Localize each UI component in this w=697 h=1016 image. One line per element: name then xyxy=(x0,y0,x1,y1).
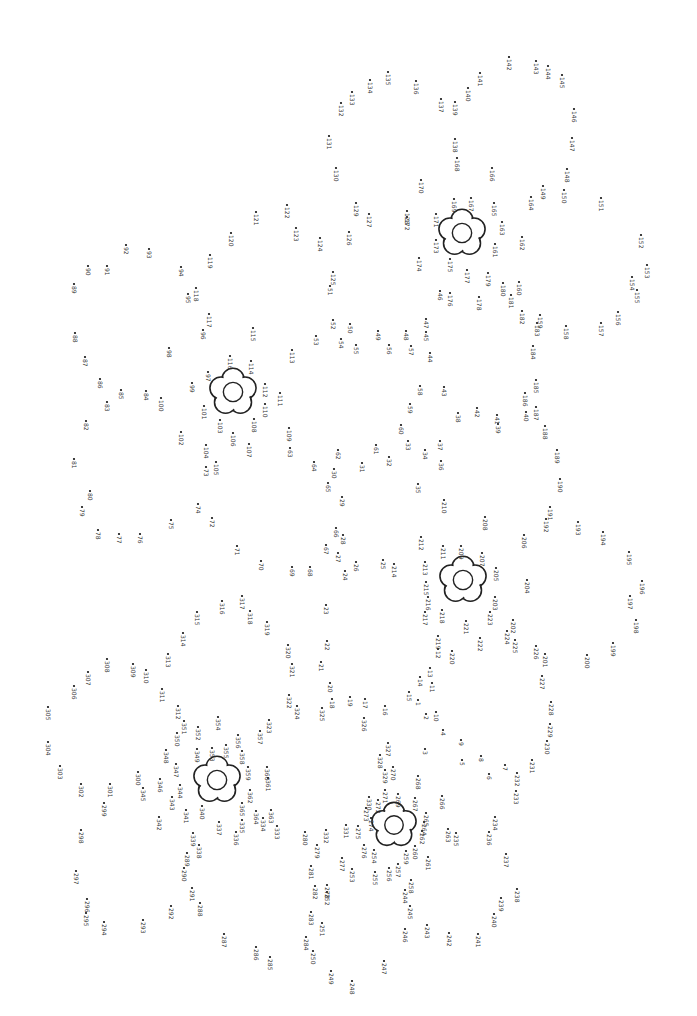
dot-29: 29 xyxy=(339,496,346,507)
dot-label: 361 xyxy=(265,780,272,792)
dot-label: 110 xyxy=(262,406,269,418)
numbered-dots: 1234567891011121314151617181920212223242… xyxy=(45,56,651,995)
dot-44: 44 xyxy=(427,352,434,363)
dot-43: 43 xyxy=(441,386,448,397)
dot-77: 77 xyxy=(116,533,123,544)
dot-label: 165 xyxy=(491,205,498,217)
dot-label: 301 xyxy=(107,786,114,798)
dot-25: 25 xyxy=(380,559,387,570)
dot-label: 228 xyxy=(548,704,555,716)
dot-82: 82 xyxy=(83,420,90,431)
dot-28: 28 xyxy=(340,534,347,545)
dot-label: 141 xyxy=(477,75,484,87)
dot-69: 69 xyxy=(289,566,296,577)
dot-274: 274 xyxy=(368,817,375,832)
dot-289: 289 xyxy=(184,852,191,867)
dot-label: 43 xyxy=(441,389,448,397)
dot-165: 165 xyxy=(491,202,498,217)
dot-label: 147 xyxy=(569,140,576,152)
dot-label: 5 xyxy=(459,762,466,766)
dot-label: 272 xyxy=(375,802,382,814)
dot-94: 94 xyxy=(178,266,185,277)
dot-label: 89 xyxy=(71,286,78,294)
dot-label: 219 xyxy=(435,638,442,650)
dot-204: 204 xyxy=(524,579,531,594)
dot-259: 259 xyxy=(403,850,410,865)
dot-110: 110 xyxy=(262,403,269,418)
dot-311: 311 xyxy=(159,688,166,703)
dot-label: 294 xyxy=(101,924,108,936)
dot-label: 256 xyxy=(386,870,393,882)
dot-211: 211 xyxy=(440,545,447,560)
dot-286: 286 xyxy=(253,946,260,961)
dot-label: 19 xyxy=(347,699,354,707)
dot-266: 266 xyxy=(439,795,446,810)
dot-label: 36 xyxy=(438,463,445,471)
dot-label: 177 xyxy=(464,272,471,284)
dot-label: 98 xyxy=(166,350,173,358)
dot-334: 334 xyxy=(260,817,267,832)
dot-355: 355 xyxy=(223,744,230,759)
dot-label: 10 xyxy=(433,714,440,722)
dot-17: 17 xyxy=(362,698,369,709)
dot-293: 293 xyxy=(140,919,147,934)
dot-302: 302 xyxy=(78,783,85,798)
dot-3: 3 xyxy=(422,748,429,755)
dot-61: 61 xyxy=(373,444,380,455)
dot-label: 108 xyxy=(251,421,258,433)
flower-icon xyxy=(210,368,256,413)
dot-label: 226 xyxy=(533,648,540,660)
dot-218: 218 xyxy=(439,609,446,624)
dot-label: 193 xyxy=(575,524,582,536)
dot-237: 237 xyxy=(503,853,510,868)
dot-label: 140 xyxy=(465,90,472,102)
dot-339: 339 xyxy=(190,832,197,847)
dot-249: 249 xyxy=(328,970,335,985)
dot-219: 219 xyxy=(435,635,442,650)
dot-235: 235 xyxy=(453,832,460,847)
dot-33: 33 xyxy=(405,440,412,451)
dot-80: 80 xyxy=(87,490,94,501)
dot-label: 292 xyxy=(168,908,175,920)
dot-label: 72 xyxy=(209,520,216,528)
dot-label: 326 xyxy=(361,720,368,732)
dot-139: 139 xyxy=(452,101,459,116)
dot-256: 256 xyxy=(386,867,393,882)
dot-label: 199 xyxy=(610,645,617,657)
dot-label: 187 xyxy=(533,409,540,421)
dot-label: 11 xyxy=(429,685,436,693)
dot-261: 261 xyxy=(425,856,432,871)
dot-label: 331 xyxy=(343,827,350,839)
dot-62: 62 xyxy=(335,449,342,460)
dot-103: 103 xyxy=(217,419,224,434)
dot-180: 180 xyxy=(500,282,507,297)
dot-label: 254 xyxy=(371,852,378,864)
dot-label: 126 xyxy=(346,234,353,246)
dot-319: 319 xyxy=(264,621,271,636)
dot-346: 346 xyxy=(157,778,164,793)
dot-label: 269 xyxy=(395,796,402,808)
dot-label: 279 xyxy=(314,847,321,859)
dot-295: 295 xyxy=(83,912,90,927)
dot-label: 304 xyxy=(45,744,52,756)
dot-242: 242 xyxy=(446,932,453,947)
dot-363: 363 xyxy=(268,809,275,824)
dot-15: 15 xyxy=(406,691,413,702)
dot-label: 247 xyxy=(381,963,388,975)
dot-351: 351 xyxy=(181,720,188,735)
dot-160: 160 xyxy=(516,281,523,296)
dot-171: 171 xyxy=(433,213,440,228)
dot-label: 45 xyxy=(423,334,430,342)
dot-label: 195 xyxy=(626,554,633,566)
dot-251: 251 xyxy=(319,922,326,937)
dot-label: 179 xyxy=(485,275,492,287)
dot-350: 350 xyxy=(174,732,181,747)
dot-307: 307 xyxy=(85,671,92,686)
dot-220: 220 xyxy=(449,650,456,665)
dot-label: 118 xyxy=(193,290,200,302)
dot-331: 331 xyxy=(343,824,350,839)
dot-2: 2 xyxy=(423,713,430,720)
dot-116: 116 xyxy=(227,355,234,370)
dot-label: 174 xyxy=(416,260,423,272)
dot-99: 99 xyxy=(189,382,196,393)
